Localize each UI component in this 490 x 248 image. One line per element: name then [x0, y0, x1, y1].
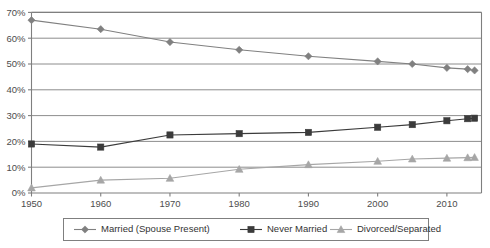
y-tick-label: 0%	[12, 187, 26, 198]
data-point-marker	[444, 118, 450, 124]
y-tick-label: 40%	[6, 84, 26, 95]
x-tick-label: 2000	[367, 198, 388, 209]
x-tick-label: 1980	[229, 198, 250, 209]
y-tick-label: 20%	[6, 136, 26, 147]
x-tick-label: 2010	[436, 198, 457, 209]
data-point-marker	[465, 116, 471, 122]
data-point-marker	[28, 141, 34, 147]
legend-label: Married (Spouse Present)	[101, 223, 210, 234]
line-chart: 0%10%20%30%40%50%60%70% 1950196019701980…	[0, 0, 490, 248]
data-point-marker	[409, 122, 415, 128]
legend-label: Divorced/Separated	[357, 223, 441, 234]
data-point-marker	[236, 131, 242, 137]
legend-marker-icon	[248, 226, 254, 232]
y-tick-label: 10%	[6, 162, 26, 173]
y-tick-label: 50%	[6, 58, 26, 69]
y-tick-label: 60%	[6, 33, 26, 44]
legend-label: Never Married	[267, 223, 327, 234]
chart-container: 0%10%20%30%40%50%60%70% 1950196019701980…	[0, 0, 490, 248]
data-point-marker	[98, 144, 104, 150]
y-tick-label: 70%	[6, 7, 26, 18]
data-point-marker	[471, 115, 477, 121]
y-tick-label: 30%	[6, 110, 26, 121]
data-point-marker	[167, 132, 173, 138]
x-tick-label: 1960	[90, 198, 111, 209]
x-tick-label: 1990	[298, 198, 319, 209]
chart-legend: Married (Spouse Present)Never MarriedDiv…	[64, 219, 441, 241]
x-tick-label: 1950	[21, 198, 42, 209]
data-point-marker	[305, 129, 311, 135]
x-tick-label: 1970	[159, 198, 180, 209]
data-point-marker	[375, 124, 381, 130]
